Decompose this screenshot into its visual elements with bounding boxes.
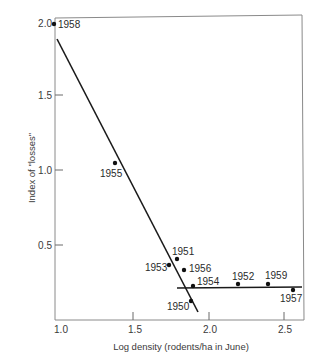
data-point-1956 — [182, 268, 186, 272]
y-tick-label: 0.5 — [38, 240, 52, 251]
flat-regression-line — [177, 287, 302, 288]
top-border — [55, 15, 302, 18]
point-label-1950: 1950 — [167, 301, 190, 312]
x-tick-label: 2.0 — [203, 324, 217, 335]
data-point-1954 — [191, 284, 195, 288]
x-tick-label: 1.5 — [128, 324, 142, 335]
data-point-1959 — [266, 282, 270, 286]
y-ticks — [55, 95, 63, 245]
right-border — [302, 15, 304, 320]
data-point-1957 — [291, 288, 295, 292]
point-label-1951: 1951 — [172, 246, 195, 257]
chart-canvas: 0.5 1.0 1.5 2.0 1.0 1.5 2.0 2.5 Log dens… — [0, 0, 320, 364]
data-point-1950 — [189, 299, 193, 303]
data-point-1953 — [167, 263, 171, 267]
point-label-1958: 1958 — [58, 19, 81, 30]
y-tick-label: 2.0 — [38, 18, 52, 29]
point-label-1957: 1957 — [280, 293, 303, 304]
steep-regression-line — [57, 39, 198, 312]
point-label-1956: 1956 — [189, 263, 212, 274]
point-label-1953: 1953 — [145, 262, 168, 273]
x-ticks — [133, 312, 284, 320]
point-label-1954: 1954 — [197, 276, 220, 287]
data-points — [52, 22, 295, 303]
data-point-1955 — [113, 161, 117, 165]
data-point-1951 — [175, 257, 179, 261]
x-tick-label: 2.5 — [278, 324, 292, 335]
x-tick-label: 1.0 — [54, 324, 68, 335]
point-label-1959: 1959 — [265, 270, 288, 281]
point-label-1952: 1952 — [232, 271, 255, 282]
x-axis-title: Log density (rodents/ha in June) — [113, 341, 249, 352]
y-tick-label: 1.5 — [38, 90, 52, 101]
data-point-1958 — [52, 22, 56, 26]
data-point-1952 — [236, 282, 240, 286]
y-axis-title: Index of "losses" — [26, 133, 37, 203]
point-label-1955: 1955 — [100, 168, 123, 179]
y-tick-label: 1.0 — [38, 165, 52, 176]
